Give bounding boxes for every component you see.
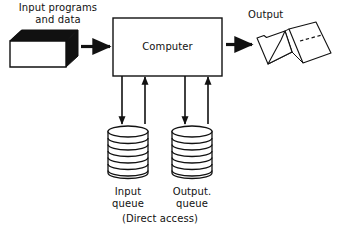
output-paper-icon [257, 22, 331, 64]
output-queue-label-line1: Output. [166, 186, 218, 198]
input-queue-label-line2: queue [103, 198, 153, 210]
input-source-label-line2: and data [8, 14, 108, 26]
card-deck-icon [10, 30, 78, 67]
input-queue-disk-icon [108, 126, 148, 179]
output-queue-disk-icon [172, 126, 212, 179]
diagram-canvas: Input programs and data Computer Output … [0, 0, 337, 237]
computer-box-label: Computer [113, 41, 222, 53]
input-queue-label-line1: Input [103, 186, 153, 198]
direct-access-caption: (Direct access) [100, 213, 220, 225]
output-queue-label-line2: queue [166, 198, 218, 210]
output-label: Output [248, 9, 283, 21]
input-source-label-line1: Input programs [8, 2, 108, 14]
